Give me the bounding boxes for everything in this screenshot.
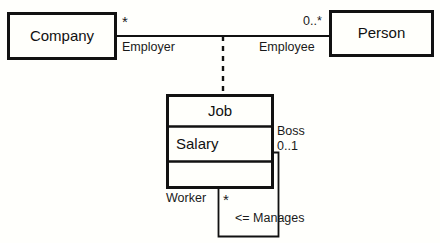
uml-class-diagram-canvas: Company Person Job Salary * Employer 0..… [0, 0, 440, 243]
employer-role-label: Employer [122, 41, 175, 54]
company-class-name: Company [9, 28, 115, 44]
boss-multiplicity-label: 0..1 [277, 140, 298, 153]
worker-role-label: Worker [166, 192, 206, 205]
employee-multiplicity-label: 0..* [303, 15, 322, 28]
employee-role-label: Employee [259, 41, 315, 54]
person-class-name: Person [331, 25, 432, 41]
boss-role-label: Boss [277, 125, 305, 138]
job-attribute-salary: Salary [176, 136, 219, 152]
employer-multiplicity-label: * [122, 17, 128, 27]
job-class-name: Job [168, 103, 272, 119]
manages-association-label: <= Manages [235, 212, 305, 225]
worker-multiplicity-label: * [223, 195, 229, 205]
